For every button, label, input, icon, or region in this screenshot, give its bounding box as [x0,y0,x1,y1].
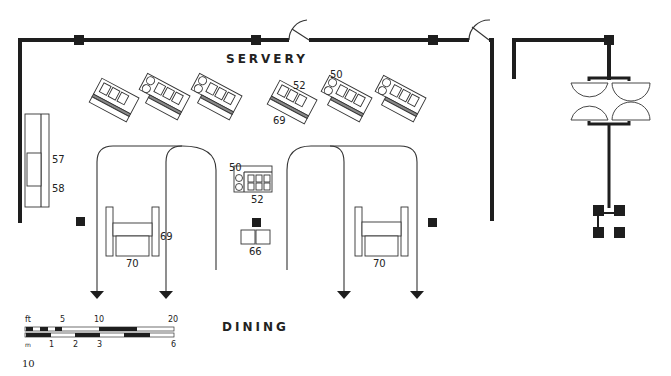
svg-text:10: 10 [94,315,104,324]
right-wall [489,40,492,221]
page-number: 10 [22,358,35,369]
svg-text:1: 1 [49,340,54,349]
wall-unit [25,114,49,207]
arrow-down-icon [90,291,104,299]
annex-wall [514,40,609,80]
label-50: 50 [330,69,343,80]
arrow-down-icon [410,291,424,299]
column [593,205,604,216]
column [593,227,604,238]
column [428,218,437,227]
door-frame-bottom [589,121,629,124]
flow-path [166,146,216,292]
column [428,35,438,45]
scale-bar: ft 5 10 20 m 1 2 3 6 [25,315,178,349]
svg-text:6: 6 [171,340,176,349]
column [74,35,84,45]
door-frame-top [589,78,629,81]
counter-unit [371,75,426,121]
counter-unit [135,73,190,119]
left-and-top-wall [20,40,289,223]
servery-counters [89,73,426,123]
svg-text:5: 5 [60,315,65,324]
svg-text:2: 2 [73,340,78,349]
svg-text:20: 20 [168,315,178,324]
door-leaf [612,83,650,101]
scale-unit-ft: ft [25,315,31,324]
door-leaf [571,106,608,120]
scale-unit-m: m [25,341,31,348]
label-69: 69 [273,115,286,126]
label-57: 57 [52,154,65,165]
annex-entrance [571,77,650,238]
arrow-down-icon [337,291,351,299]
serving-station-right [355,207,408,256]
door-leaf [612,102,650,120]
label-69-lane: 69 [160,231,173,242]
column [76,217,85,226]
serving-station-left [106,207,159,256]
label-70-right: 70 [373,258,386,269]
column [614,205,625,216]
counter-unit [89,78,139,122]
label-58: 58 [52,183,65,194]
unit-66 [241,230,270,244]
column [614,227,625,238]
label-52: 52 [293,80,306,91]
counter-unit [317,75,372,121]
walls [20,35,614,227]
arrow-down-icon [159,291,173,299]
door-servery-2 [469,20,490,40]
label-70-left: 70 [126,258,139,269]
column [251,35,261,45]
floor-plan: SERVERY DINING [0,0,671,376]
flow-path [287,146,344,292]
svg-text:3: 3 [97,340,102,349]
door-leaf [571,83,608,97]
room-label-servery: SERVERY [226,52,308,66]
counter-unit [187,73,242,119]
column [604,35,614,45]
label-52-island: 52 [251,194,264,205]
label-66: 66 [249,246,262,257]
doors [289,20,490,40]
column [252,218,261,227]
label-50-island: 50 [229,162,242,173]
door-servery-1 [289,20,309,40]
room-label-dining: DINING [222,320,289,334]
